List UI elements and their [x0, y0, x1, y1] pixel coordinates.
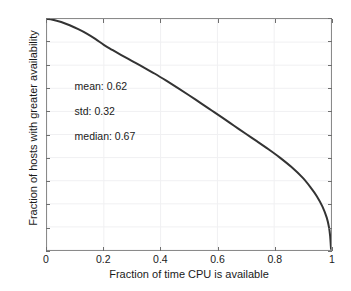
y-tick-mark [328, 251, 332, 252]
y-tick-mark [46, 204, 50, 205]
x-tick-mark [160, 247, 161, 251]
y-tick-mark [46, 88, 50, 89]
y-tick-mark [328, 111, 332, 112]
x-tick-mark [218, 247, 219, 251]
y-tick-mark [46, 158, 50, 159]
stat-annotation: median: 0.67 [75, 131, 136, 142]
y-tick-mark [328, 88, 332, 89]
y-tick-mark [328, 158, 332, 159]
y-tick-mark [328, 65, 332, 66]
stat-annotation: std: 0.32 [75, 106, 115, 117]
x-tick-mark [332, 19, 333, 23]
y-tick-mark [328, 135, 332, 136]
y-tick-mark [46, 181, 50, 182]
y-tick-mark [328, 181, 332, 182]
y-tick-mark [46, 251, 50, 252]
x-axis-title: Fraction of time CPU is available [46, 268, 332, 280]
y-tick-mark [328, 41, 332, 42]
x-tick-label: 0.2 [83, 254, 123, 265]
y-axis-title: Fraction of hosts with greater availabil… [27, 12, 39, 245]
y-tick-mark [46, 135, 50, 136]
x-tick-label: 0.8 [255, 254, 295, 265]
cpu-availability-ccdf-figure: 00.10.20.30.40.50.60.70.80.91 00.20.40.6… [0, 0, 351, 291]
x-tick-mark [103, 247, 104, 251]
y-tick-mark [46, 111, 50, 112]
x-tick-mark [218, 19, 219, 23]
x-tick-label: 0.4 [140, 254, 180, 265]
y-tick-mark [46, 228, 50, 229]
y-tick-mark [328, 228, 332, 229]
x-tick-mark [103, 19, 104, 23]
x-tick-label: 1 [312, 254, 351, 265]
x-tick-label: 0.6 [198, 254, 238, 265]
y-tick-mark [328, 204, 332, 205]
x-tick-mark [275, 19, 276, 23]
x-tick-label: 0 [26, 254, 66, 265]
x-tick-mark [160, 19, 161, 23]
y-tick-mark [46, 65, 50, 66]
x-tick-mark [332, 247, 333, 251]
stat-annotation: mean: 0.62 [75, 81, 128, 92]
y-tick-mark [46, 41, 50, 42]
x-tick-mark [46, 247, 47, 251]
x-tick-mark [275, 247, 276, 251]
x-tick-mark [46, 19, 47, 23]
